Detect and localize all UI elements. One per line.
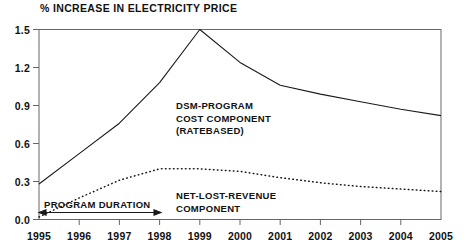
x-tick-label-1996: 1996 (58, 230, 100, 242)
y-axis-ticks (33, 30, 39, 220)
x-tick-label-2002: 2002 (299, 230, 341, 242)
x-tick-label-1997: 1997 (98, 230, 140, 242)
chart-figure: % INCREASE IN ELECTRICITY PRICE (0, 0, 469, 249)
annotation-dsm-line-1: DSM-PROGRAM (176, 100, 271, 113)
annotation-net-lost-revenue: NET-LOST-REVENUE COMPONENT (176, 190, 276, 215)
annotation-nlr-line-1: NET-LOST-REVENUE (176, 190, 276, 203)
x-tick-label-2000: 2000 (219, 230, 261, 242)
x-tick-label-2005: 2005 (420, 230, 462, 242)
x-tick-label-2001: 2001 (259, 230, 301, 242)
x-tick-label-1998: 1998 (139, 230, 181, 242)
annotation-program-duration: PROGRAM DURATION (44, 199, 150, 212)
y-tick-label-0_0: 0.0 (0, 214, 30, 226)
x-tick-label-2003: 2003 (340, 230, 382, 242)
y-tick-label-0_3: 0.3 (0, 176, 30, 188)
x-axis-ticks (79, 220, 401, 226)
x-tick-label-1999: 1999 (179, 230, 221, 242)
annotation-dsm-line-2: COST COMPONENT (176, 113, 271, 126)
annotation-dsm-program: DSM-PROGRAM COST COMPONENT (RATEBASED) (176, 100, 271, 138)
x-tick-label-1995: 1995 (18, 230, 60, 242)
y-tick-label-0_9: 0.9 (0, 100, 30, 112)
y-tick-label-1_2: 1.2 (0, 62, 30, 74)
annotation-nlr-line-2: COMPONENT (176, 203, 276, 216)
annotation-dsm-line-3: (RATEBASED) (176, 125, 271, 138)
y-tick-label-0_6: 0.6 (0, 138, 30, 150)
x-tick-label-2004: 2004 (380, 230, 422, 242)
y-tick-label-1_5: 1.5 (0, 24, 30, 36)
